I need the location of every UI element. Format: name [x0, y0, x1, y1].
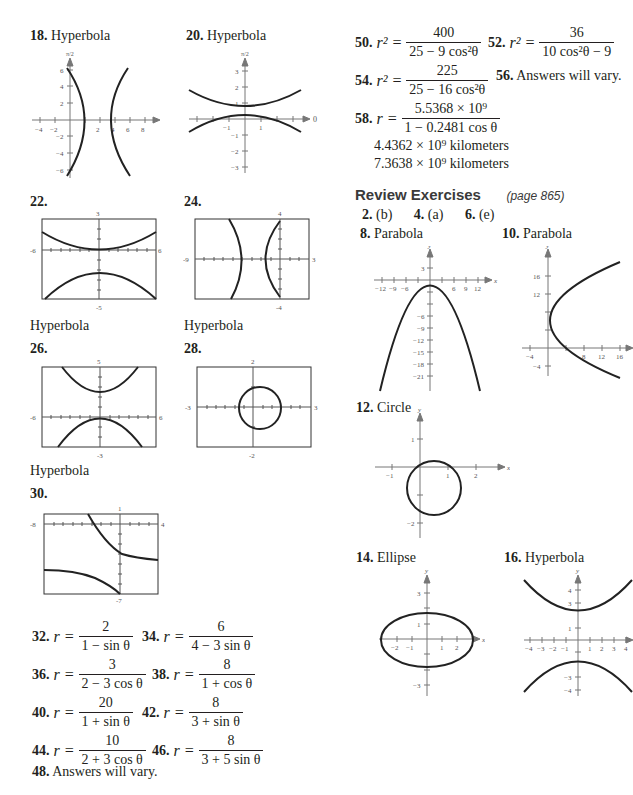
svg-text:−1: −1 — [406, 644, 414, 652]
svg-text:y: y — [417, 408, 422, 414]
svg-text:-2: -2 — [249, 452, 255, 460]
svg-text:6: 6 — [126, 126, 130, 134]
svg-text:16: 16 — [616, 353, 624, 361]
svg-text:3: 3 — [568, 600, 572, 608]
svg-text:3: 3 — [314, 404, 318, 412]
exercise-24-caption: Hyperbola — [184, 318, 243, 334]
equation-34: 34. r = 64 − 3 sin θ — [142, 618, 253, 655]
svg-text:1: 1 — [118, 505, 122, 513]
svg-text:-7: -7 — [116, 597, 122, 605]
svg-text:1: 1 — [588, 645, 592, 653]
svg-text:-4: -4 — [276, 304, 282, 312]
svg-text:9: 9 — [464, 285, 468, 293]
exercise-48: 48. Answers will vary. — [32, 764, 157, 780]
svg-text:2: 2 — [96, 126, 100, 134]
svg-text:−9: −9 — [389, 285, 397, 293]
equation-46: 46. r = 83 + 5 sin θ — [152, 732, 263, 769]
svg-text:−21: −21 — [413, 373, 424, 381]
svg-text:0: 0 — [313, 115, 317, 124]
graph-8-parabola: −12−9−6 6912 3−6−9 −12−15−18−21 x y — [370, 246, 500, 396]
svg-text:−4: −4 — [56, 150, 64, 158]
svg-text:−4: −4 — [564, 687, 572, 695]
graph-30-calculator: 1 -7 -8 4 — [30, 500, 170, 608]
graph-14-ellipse: −2−112 31−3 x y — [375, 566, 485, 701]
svg-text:3: 3 — [421, 265, 425, 273]
svg-text:1: 1 — [417, 621, 421, 629]
svg-text:-5: -5 — [96, 304, 102, 312]
svg-text:y: y — [545, 246, 550, 250]
exercise-8-heading: 8. Parabola — [360, 226, 423, 242]
svg-text:−1: −1 — [561, 645, 569, 653]
svg-text:1: 1 — [440, 644, 444, 652]
graph-28-calculator: 2 -2 -3 3 — [183, 355, 323, 460]
svg-text:y: y — [427, 246, 432, 250]
svg-text:4: 4 — [624, 645, 628, 653]
equation-52: 52. r² = 3610 cos²θ − 9 — [488, 24, 614, 61]
page-reference: (page 865) — [506, 189, 564, 203]
svg-text:−6: −6 — [401, 285, 409, 293]
equation-32: 32. r = 21 − sin θ — [32, 618, 133, 655]
graph-16-hyperbola: −4−3−2−1 1234 431 −3−4 y — [522, 566, 633, 701]
svg-text:12: 12 — [474, 285, 482, 293]
svg-text:−12: −12 — [375, 285, 386, 293]
svg-text:3: 3 — [612, 645, 616, 653]
svg-text:1: 1 — [259, 124, 263, 132]
svg-text:−3: −3 — [537, 645, 545, 653]
svg-text:2: 2 — [60, 100, 64, 108]
svg-text:4: 4 — [161, 521, 165, 529]
svg-text:y: y — [575, 567, 580, 575]
svg-text:−4: −4 — [526, 353, 534, 361]
svg-text:16: 16 — [533, 273, 541, 281]
equation-40: 40. r = 201 + sin θ — [32, 694, 133, 731]
exercise-20-heading: 20. Hyperbola — [186, 28, 266, 44]
svg-text:y: y — [424, 567, 429, 575]
exercise-18-heading: 18. Hyperbola — [30, 28, 110, 44]
svg-text:6: 6 — [452, 285, 456, 293]
svg-text:−1: −1 — [223, 124, 231, 132]
svg-text:−2: −2 — [56, 133, 64, 141]
graph-12-circle: −112 1−2 x y — [370, 408, 510, 543]
svg-text:4: 4 — [278, 210, 282, 218]
exercise-26-caption: Hyperbola — [30, 463, 89, 479]
svg-text:π/2: π/2 — [241, 51, 249, 57]
svg-text:2: 2 — [455, 644, 459, 652]
equation-38: 38. r = 81 + cos θ — [152, 656, 255, 693]
svg-text:2: 2 — [235, 84, 239, 92]
svg-text:-9: -9 — [183, 256, 189, 264]
svg-text:−1: −1 — [231, 132, 239, 140]
svg-text:6: 6 — [159, 414, 163, 422]
svg-text:3: 3 — [235, 68, 239, 76]
svg-text:x: x — [506, 464, 510, 472]
answer-58-line-2: 7.3638 × 10⁹ kilometers — [374, 156, 509, 172]
graph-26-calculator: 5 -3 -6 6 — [30, 355, 170, 460]
graph-20-hyperbola: −11 321 −1−2−3 0 π/2 — [185, 48, 320, 178]
svg-text:12: 12 — [533, 291, 541, 299]
exercise-56: 56. Answers will vary. — [496, 68, 621, 84]
svg-text:π/2: π/2 — [66, 51, 74, 57]
svg-text:2: 2 — [251, 358, 255, 366]
svg-text:x: x — [481, 636, 485, 644]
svg-text:2: 2 — [600, 645, 604, 653]
exercise-14-heading: 14. Ellipse — [356, 550, 416, 566]
review-answers-2-4-6: 2. (b) 4. (a) 6. (e) — [362, 207, 494, 223]
equation-36: 36. r = 32 − 3 cos θ — [32, 656, 146, 693]
section-title: Review Exercises — [355, 186, 481, 203]
answer-58-line-1: 4.4362 × 10⁹ kilometers — [374, 138, 509, 154]
svg-text:−1: −1 — [386, 472, 394, 480]
svg-text:-3: -3 — [185, 404, 191, 412]
svg-text:−2: −2 — [407, 520, 415, 528]
svg-text:3: 3 — [96, 210, 100, 218]
svg-text:x: x — [493, 277, 498, 285]
svg-text:4: 4 — [568, 587, 572, 595]
exercise-16-heading: 16. Hyperbola — [504, 550, 584, 566]
svg-text:−4: −4 — [525, 645, 533, 653]
svg-text:12: 12 — [598, 353, 606, 361]
svg-text:-3: -3 — [97, 452, 103, 460]
svg-text:−9: −9 — [417, 325, 425, 333]
svg-text:1: 1 — [446, 472, 450, 480]
exercise-10-heading: 10. Parabola — [502, 226, 572, 242]
exercise-22-caption: Hyperbola — [30, 318, 89, 334]
graph-10-parabola: −481216 1612−4 y — [520, 246, 633, 396]
svg-text:3: 3 — [312, 256, 316, 264]
svg-text:−6: −6 — [56, 167, 64, 175]
